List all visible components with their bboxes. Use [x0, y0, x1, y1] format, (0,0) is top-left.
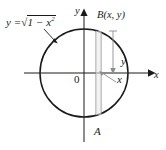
segment-y-label: y: [121, 56, 126, 67]
radicand-exponent: 2: [51, 15, 55, 22]
unit-circle-figure: y =√1 − x2 B(x, y) y x 0 A x y: [0, 0, 166, 150]
equation-leader: [44, 29, 58, 44]
equation-leader-line: [44, 29, 55, 41]
y-bracket-arrowhead: [110, 68, 115, 75]
origin-label: 0: [74, 74, 80, 85]
point-a-label: A: [94, 126, 101, 137]
y-axis-arrowhead: [80, 9, 87, 17]
x-axis-label: x: [154, 70, 159, 81]
equation-lhs: y =: [6, 16, 21, 28]
y-axis-label: y: [75, 6, 80, 17]
x-axis: [24, 69, 156, 76]
curve-equation-label: y =√1 − x2: [6, 16, 56, 28]
segment-x-label: x: [117, 74, 122, 85]
x-leader-line: [102, 73, 117, 83]
radicand-body: 1 − x: [28, 16, 52, 28]
point-b-label: B(x, y): [97, 10, 125, 21]
radicand: 1 − x2: [27, 15, 56, 28]
